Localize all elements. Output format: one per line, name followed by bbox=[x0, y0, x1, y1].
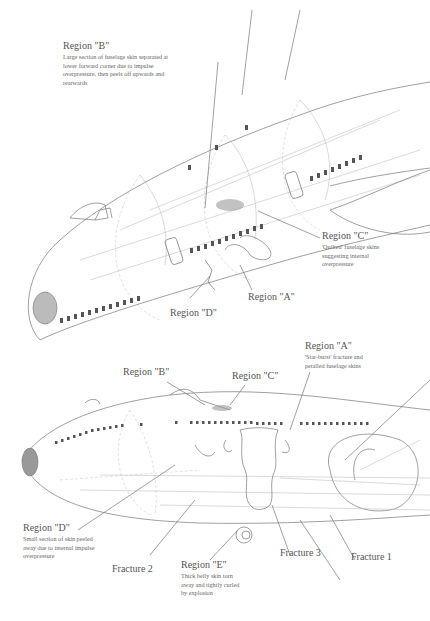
lower-region-b-label: Region "B" bbox=[123, 366, 169, 377]
fuselage-damage-diagram: Region "B" Large section of fuselage ski… bbox=[0, 0, 430, 621]
lower-region-d-description: Small section of skin peeled away due to… bbox=[23, 535, 94, 561]
lower-region-a-label: Region "A" bbox=[305, 340, 352, 351]
lower-region-e-description: Thick belly skin torn away and tightly c… bbox=[181, 572, 239, 598]
upper-region-b-label: Region "B" bbox=[63, 40, 109, 51]
upper-region-c-description: 'Quilted' fuselage skins suggesting inte… bbox=[322, 243, 379, 269]
nose-radome-icon bbox=[22, 448, 38, 476]
fracture-3-label: Fracture 3 bbox=[280, 547, 321, 558]
lower-region-e-label: Region "E" bbox=[181, 559, 227, 570]
lower-region-d-label: Region "D" bbox=[23, 522, 70, 533]
lower-region-c-label: Region "C" bbox=[232, 370, 278, 381]
fracture-2-label: Fracture 2 bbox=[112, 563, 153, 574]
cabin-windows bbox=[55, 421, 369, 444]
fracture-1-label: Fracture 1 bbox=[351, 551, 392, 562]
upper-region-b-description: Large section of fuselage skin separated… bbox=[63, 53, 168, 87]
upper-region-d-label: Region "D" bbox=[170, 307, 217, 318]
lower-region-a-description: 'Star-burst' fracture and petalled fusel… bbox=[305, 353, 363, 370]
upper-region-c-label: Region "C" bbox=[322, 230, 368, 241]
upper-region-a-label: Region "A" bbox=[248, 291, 295, 302]
